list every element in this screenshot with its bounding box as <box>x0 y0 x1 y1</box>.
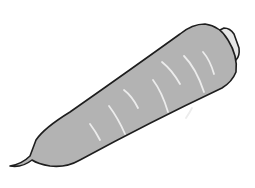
carrot-illustration <box>0 0 255 188</box>
carrot-body <box>10 24 236 166</box>
illustration-canvas: carrot <box>0 0 255 188</box>
